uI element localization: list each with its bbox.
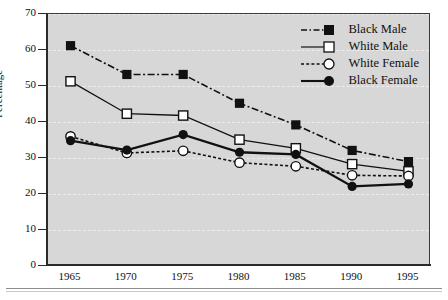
legend-label-white-male: White Male <box>346 39 408 54</box>
data-point <box>66 41 75 50</box>
figure: Percentage Black Male <box>0 0 448 300</box>
y-axis-tick <box>38 265 47 266</box>
data-point <box>404 171 413 180</box>
x-axis-tick-label: 1995 <box>377 270 437 282</box>
legend-swatch-black-female <box>300 73 346 89</box>
data-point <box>66 77 75 86</box>
legend-label-black-male: Black Male <box>346 22 407 37</box>
legend-item-black-female[interactable]: Black Female <box>300 72 419 89</box>
y-axis-tick-label: 30 <box>0 151 36 162</box>
data-point <box>179 130 188 139</box>
y-axis-tick <box>38 85 47 86</box>
legend: Black Male White Male Wh <box>296 19 423 91</box>
y-axis-tick-label: 70 <box>0 7 36 18</box>
y-axis-tick-label: 10 <box>0 223 36 234</box>
data-point <box>347 171 356 180</box>
legend-label-black-female: Black Female <box>346 73 418 88</box>
data-point <box>291 120 300 129</box>
data-point <box>122 145 131 154</box>
data-point <box>235 99 244 108</box>
x-axis-tick-label: 1990 <box>321 270 381 282</box>
y-axis-tick <box>38 193 47 194</box>
x-axis-tick-label: 1980 <box>209 270 269 282</box>
y-axis-title: Percentage <box>0 70 4 118</box>
data-point <box>348 182 357 191</box>
y-axis-tick <box>38 13 47 14</box>
legend-swatch-white-female <box>300 56 346 72</box>
y-axis-tick-label: 0 <box>0 259 36 270</box>
x-axis-tick-label: 1975 <box>152 270 212 282</box>
y-axis-tick-label: 40 <box>0 115 36 126</box>
footer-rule-secondary <box>6 291 442 292</box>
data-point <box>291 150 300 159</box>
x-axis-line <box>46 264 431 266</box>
y-axis-tick <box>38 157 47 158</box>
legend-swatch-black-male <box>300 22 346 38</box>
data-point <box>235 148 244 157</box>
data-point <box>235 158 244 167</box>
data-point <box>291 162 300 171</box>
data-point <box>404 179 413 188</box>
legend-item-black-male[interactable]: Black Male <box>300 21 419 38</box>
plot-area: Black Male White Male Wh <box>47 13 430 265</box>
data-point <box>178 146 187 155</box>
data-point <box>348 146 357 155</box>
legend-label-white-female: White Female <box>346 56 419 71</box>
data-point <box>122 109 131 118</box>
y-axis-tick-label: 60 <box>0 43 36 54</box>
y-axis-tick-label: 20 <box>0 187 36 198</box>
legend-swatch-white-male <box>300 39 346 55</box>
x-axis-tick-label: 1985 <box>265 270 325 282</box>
y-axis-tick <box>38 121 47 122</box>
data-point <box>235 135 244 144</box>
legend-item-white-male[interactable]: White Male <box>300 38 419 55</box>
x-axis-tick-label: 1970 <box>96 270 156 282</box>
footer-rule <box>6 288 442 289</box>
x-axis-tick-label: 1965 <box>40 270 100 282</box>
data-point <box>66 136 75 145</box>
data-point <box>348 160 357 169</box>
data-point <box>404 157 413 166</box>
y-axis-tick <box>38 229 47 230</box>
y-axis-tick-label: 50 <box>0 79 36 90</box>
data-point <box>179 111 188 120</box>
y-axis-tick <box>38 49 47 50</box>
data-point <box>179 70 188 79</box>
data-point <box>122 70 131 79</box>
legend-item-white-female[interactable]: White Female <box>300 55 419 72</box>
